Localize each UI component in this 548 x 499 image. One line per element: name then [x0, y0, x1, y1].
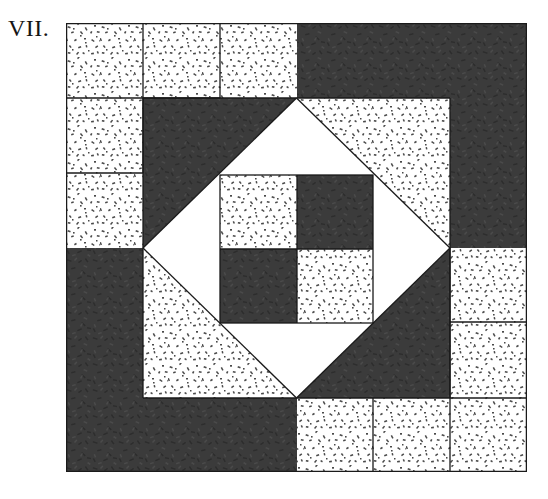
piece-bottom-left-dark	[66, 398, 297, 472]
piece-top-bar	[220, 23, 297, 98]
quilt-block-svg	[66, 23, 527, 472]
piece-left-print	[66, 173, 143, 248]
piece-corner-tl-c	[66, 98, 143, 173]
center-bl	[220, 249, 297, 323]
piece-corner-tl-b	[143, 23, 220, 98]
figure-page: VII.	[0, 0, 548, 499]
piece-corner-tl-a	[66, 23, 143, 98]
plate-number-label: VII.	[8, 16, 49, 40]
piece-left-dark	[66, 248, 143, 398]
piece-corner-br-c	[450, 398, 527, 472]
center-tr	[297, 175, 373, 249]
piece-top-right-dark	[297, 23, 527, 98]
piece-right-dark	[450, 98, 527, 248]
quilt-block-diagram	[66, 23, 527, 472]
center-tl	[220, 175, 297, 249]
piece-corner-br-d	[373, 398, 450, 472]
piece-corner-br-a	[450, 248, 527, 323]
piece-corner-br-b	[450, 323, 527, 398]
center-br	[297, 249, 373, 323]
